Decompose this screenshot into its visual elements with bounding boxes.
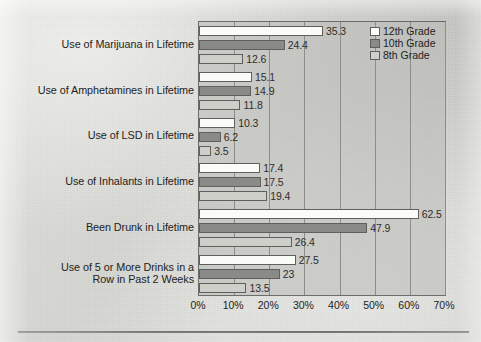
bar-value-label: 27.5 (296, 254, 319, 266)
x-tick-label: 0% (190, 299, 205, 311)
legend-swatch-icon (370, 39, 380, 48)
bar[interactable] (199, 54, 243, 64)
category-label: Use of Inhalants in Lifetime (6, 175, 194, 188)
category-label-line: Use of Marijuana in Lifetime (6, 38, 194, 51)
category-label-line: Been Drunk in Lifetime (6, 221, 194, 234)
bar-value-label: 6.2 (221, 130, 238, 142)
bar-value-label: 12.6 (243, 53, 266, 65)
bar-groups: 35.324.412.615.114.911.810.36.23.517.417… (199, 22, 445, 295)
bar-value-label: 3.5 (211, 144, 228, 156)
bar-value-label: 17.4 (260, 162, 283, 174)
bar-group: 10.36.23.5 (199, 114, 445, 160)
legend-swatch-icon (370, 27, 380, 36)
bar-value-label: 14.9 (251, 84, 274, 96)
bar-group: 62.547.926.4 (199, 205, 445, 251)
legend-entry[interactable]: 10th Grade (370, 38, 444, 49)
bar-group: 17.417.519.4 (199, 160, 445, 206)
bar[interactable] (199, 26, 323, 36)
bar[interactable] (199, 283, 246, 293)
legend-label: 12th Grade (383, 26, 436, 37)
bar[interactable] (199, 237, 292, 247)
footer-rule (18, 331, 469, 333)
legend-entry[interactable]: 8th Grade (370, 50, 444, 61)
grouped-bar-chart: Use of Marijuana in LifetimeUse of Amphe… (0, 0, 481, 342)
bar-value-label: 17.5 (261, 176, 284, 188)
bar[interactable] (199, 163, 260, 173)
bar-value-label: 26.4 (292, 236, 315, 248)
bar[interactable] (199, 86, 251, 96)
category-label-line: Row in Past 2 Weeks (6, 273, 194, 286)
bar[interactable] (199, 40, 285, 50)
chart-legend: 12th Grade10th Grade8th Grade (370, 26, 444, 62)
bar[interactable] (199, 177, 261, 187)
bar-value-label: 15.1 (252, 70, 275, 82)
bar-value-label: 35.3 (323, 25, 346, 37)
bar-group: 27.52313.5 (199, 251, 445, 297)
bar-value-label: 10.3 (235, 116, 258, 128)
x-tick-label: 10% (223, 299, 244, 311)
x-tick-label: 60% (398, 299, 419, 311)
bar[interactable] (199, 118, 235, 128)
bar[interactable] (199, 146, 211, 156)
bar[interactable] (199, 223, 367, 233)
category-label-line: Use of Inhalants in Lifetime (6, 175, 194, 188)
category-label-line: Use of Amphetamines in Lifetime (6, 84, 194, 97)
category-label-line: Use of LSD in Lifetime (6, 129, 194, 142)
category-label: Use of LSD in Lifetime (6, 129, 194, 142)
bar-value-label: 62.5 (419, 208, 442, 220)
x-axis-tick-labels: 0%10%20%30%40%50%60%70% (198, 299, 446, 315)
x-tick-label: 70% (433, 299, 454, 311)
bar-value-label: 24.4 (285, 39, 308, 51)
bar[interactable] (199, 132, 221, 142)
bar[interactable] (199, 255, 296, 265)
bar-value-label: 23 (280, 268, 294, 280)
bar-value-label: 19.4 (267, 190, 290, 202)
legend-swatch-icon (370, 51, 380, 60)
x-tick-label: 20% (258, 299, 279, 311)
category-label-line: Use of 5 or More Drinks in a (6, 261, 194, 274)
bar[interactable] (199, 72, 252, 82)
bar[interactable] (199, 191, 267, 201)
category-label: Been Drunk in Lifetime (6, 221, 194, 234)
bar[interactable] (199, 100, 240, 110)
category-axis-labels: Use of Marijuana in LifetimeUse of Amphe… (6, 21, 194, 296)
legend-entry[interactable]: 12th Grade (370, 26, 444, 37)
category-label: Use of Amphetamines in Lifetime (6, 84, 194, 97)
plot-area: 35.324.412.615.114.911.810.36.23.517.417… (198, 21, 446, 296)
scanned-page: Use of Marijuana in LifetimeUse of Amphe… (0, 0, 481, 342)
category-label: Use of 5 or More Drinks in aRow in Past … (6, 261, 194, 286)
bar-value-label: 11.8 (240, 98, 262, 110)
x-tick-label: 50% (363, 299, 384, 311)
bar-group: 15.114.911.8 (199, 68, 445, 114)
legend-label: 10th Grade (383, 38, 436, 49)
bar-value-label: 47.9 (367, 222, 390, 234)
x-tick-label: 30% (293, 299, 314, 311)
bar-value-label: 13.5 (246, 282, 269, 294)
legend-label: 8th Grade (383, 50, 430, 61)
gridline-70% (445, 22, 446, 295)
bar[interactable] (199, 269, 280, 279)
category-label: Use of Marijuana in Lifetime (6, 38, 194, 51)
bar[interactable] (199, 209, 419, 219)
x-tick-label: 40% (328, 299, 349, 311)
